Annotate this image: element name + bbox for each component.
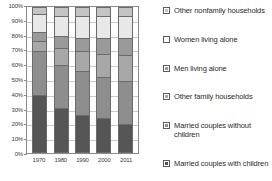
legend-swatch-icon xyxy=(163,122,170,129)
legend-label: Married couples with children xyxy=(174,159,268,168)
y-axis-tick-label: 40% xyxy=(12,92,23,98)
legend-label: Men living alone xyxy=(174,64,227,73)
bar-segment xyxy=(75,51,90,71)
bar-segment xyxy=(118,55,133,81)
bar-segment xyxy=(96,54,111,77)
y-axis-tick-label: 90% xyxy=(12,18,23,24)
bar-segment xyxy=(118,7,133,16)
bar-segment xyxy=(54,48,69,66)
x-axis-tick-label: 1980 xyxy=(53,156,68,168)
x-axis-tick-label: 1990 xyxy=(75,156,90,168)
y-axis-tick-label: 30% xyxy=(12,107,23,113)
bar-segment xyxy=(75,71,90,115)
legend-item[interactable]: Men living alone xyxy=(163,64,272,73)
bar-segment xyxy=(118,81,133,123)
legend-item[interactable]: Married couples without children xyxy=(163,121,272,139)
legend-swatch-icon xyxy=(163,65,170,72)
chart-legend: Other nonfamily householdsWomen living a… xyxy=(163,4,272,178)
bar-segment xyxy=(75,38,90,51)
bar-segment xyxy=(118,16,133,38)
legend-swatch-icon xyxy=(163,7,170,14)
bar-segment xyxy=(96,16,111,38)
bar-segment xyxy=(32,51,47,95)
y-axis-tick xyxy=(24,154,27,155)
bar-segment xyxy=(96,77,111,118)
legend-swatch-icon xyxy=(163,93,170,100)
bar-group xyxy=(27,7,138,153)
x-axis-tick-label: 1970 xyxy=(31,156,46,168)
legend-swatch-icon xyxy=(163,160,170,167)
bar-segment xyxy=(75,115,90,153)
bar-segment xyxy=(118,38,133,56)
y-axis-tick-label: 70% xyxy=(12,47,23,53)
bar-segment xyxy=(96,118,111,153)
x-axis-labels: 19701980199020002011 xyxy=(26,156,139,168)
x-axis-tick-label: 2000 xyxy=(97,156,112,168)
bar-1990 xyxy=(75,7,90,153)
bar-1970 xyxy=(32,7,47,153)
bar-segment xyxy=(32,14,47,32)
legend-label: Married couples without children xyxy=(174,121,272,139)
legend-label: Other nonfamily households xyxy=(174,6,265,15)
bar-segment xyxy=(54,36,69,48)
y-axis-tick-label: 0% xyxy=(15,151,23,157)
y-axis-tick-label: 10% xyxy=(12,136,23,142)
x-axis-tick-label: 2011 xyxy=(119,156,134,168)
y-axis-tick-label: 50% xyxy=(12,77,23,83)
legend-swatch-icon xyxy=(163,36,170,43)
legend-item[interactable]: Women living alone xyxy=(163,35,272,44)
bar-segment xyxy=(54,108,69,153)
bar-2000 xyxy=(96,7,111,153)
y-axis-tick-label: 60% xyxy=(12,62,23,68)
bar-segment xyxy=(54,65,69,107)
legend-item[interactable]: Married couples with children xyxy=(163,159,272,168)
bar-segment xyxy=(32,7,47,14)
y-axis-tick-label: 20% xyxy=(12,121,23,127)
y-axis-labels: 0%10%20%30%40%50%60%70%80%90%100% xyxy=(0,0,24,155)
y-axis-tick-label: 80% xyxy=(12,33,23,39)
bar-2011 xyxy=(118,7,133,153)
legend-label: Women living alone xyxy=(174,35,238,44)
bar-segment xyxy=(75,16,90,38)
bar-segment xyxy=(96,7,111,16)
plot-area xyxy=(26,6,139,154)
bar-segment xyxy=(32,95,47,153)
bar-segment xyxy=(118,124,133,153)
y-axis-tick-label: 100% xyxy=(8,3,23,9)
plot-area-wrapper: 0%10%20%30%40%50%60%70%80%90%100% 197019… xyxy=(0,0,160,181)
bar-1980 xyxy=(54,7,69,153)
bar-segment xyxy=(32,32,47,41)
legend-item[interactable]: Other nonfamily households xyxy=(163,6,272,15)
bar-segment xyxy=(96,38,111,54)
bar-segment xyxy=(75,7,90,16)
legend-item[interactable]: Other family households xyxy=(163,92,272,101)
bar-segment xyxy=(32,41,47,51)
bar-segment xyxy=(54,7,69,16)
legend-label: Other family households xyxy=(174,92,253,101)
bar-segment xyxy=(54,16,69,36)
stacked-bar-chart: 0%10%20%30%40%50%60%70%80%90%100% 197019… xyxy=(0,0,272,181)
